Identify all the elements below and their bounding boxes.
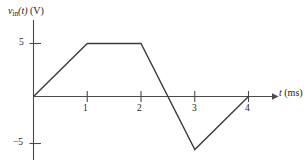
y-axis-subscript: in bbox=[12, 10, 18, 18]
y-axis-arg: (t) bbox=[18, 5, 27, 16]
waveform-figure: vin(t) (V) t (ms) 5 −5 1 2 3 4 bbox=[0, 0, 308, 166]
y-axis-title: vin(t) (V) bbox=[8, 6, 44, 16]
y-tick-label-neg5: −5 bbox=[13, 138, 23, 148]
y-axis-units: (V) bbox=[30, 5, 44, 16]
x-tick-label-2: 2 bbox=[137, 104, 142, 114]
y-tick-label-5: 5 bbox=[19, 38, 24, 48]
x-tick-label-3: 3 bbox=[192, 104, 197, 114]
x-tick-label-1: 1 bbox=[83, 104, 88, 114]
x-tick-label-4: 4 bbox=[245, 104, 250, 114]
x-axis-arrowhead bbox=[272, 93, 279, 100]
plot-area bbox=[0, 0, 308, 166]
x-axis-title: t (ms) bbox=[279, 88, 303, 98]
x-axis-units: (ms) bbox=[284, 87, 302, 98]
